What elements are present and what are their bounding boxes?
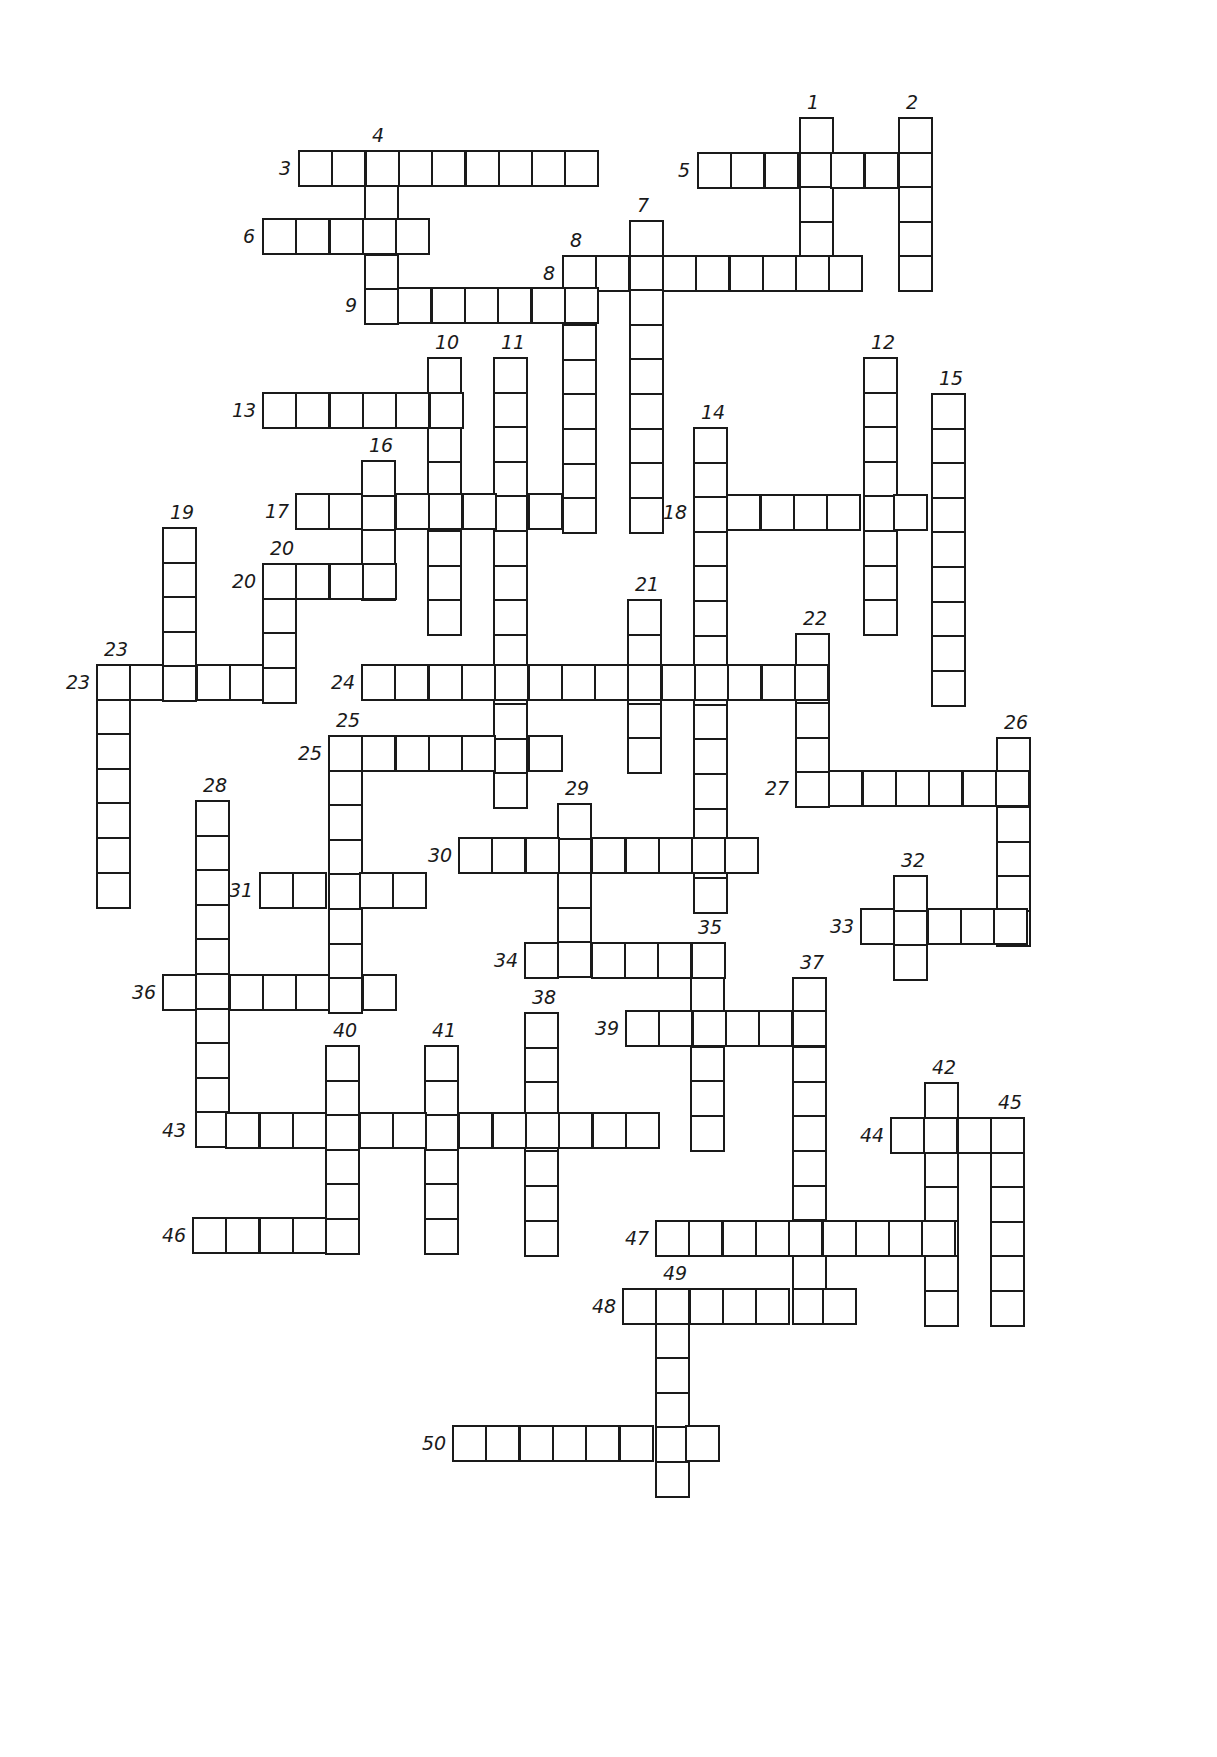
crossword-cell[interactable] bbox=[462, 493, 497, 530]
crossword-cell[interactable] bbox=[722, 1220, 757, 1257]
crossword-cell[interactable] bbox=[591, 837, 626, 874]
crossword-cell[interactable] bbox=[361, 460, 396, 497]
crossword-cell[interactable] bbox=[693, 877, 728, 914]
crossword-cell[interactable] bbox=[494, 664, 529, 701]
crossword-cell[interactable] bbox=[863, 599, 898, 636]
crossword-cell[interactable] bbox=[262, 392, 297, 429]
crossword-cell[interactable] bbox=[658, 837, 693, 874]
crossword-cell[interactable] bbox=[424, 1218, 459, 1255]
crossword-cell[interactable] bbox=[493, 703, 528, 740]
crossword-cell[interactable] bbox=[359, 1112, 394, 1149]
crossword-cell[interactable] bbox=[725, 1010, 760, 1047]
crossword-cell[interactable] bbox=[328, 804, 363, 841]
crossword-cell[interactable] bbox=[690, 1115, 725, 1152]
crossword-cell[interactable] bbox=[724, 837, 759, 874]
crossword-cell[interactable] bbox=[362, 563, 397, 600]
crossword-cell[interactable] bbox=[461, 664, 496, 701]
crossword-cell[interactable] bbox=[395, 735, 430, 772]
crossword-cell[interactable] bbox=[898, 255, 933, 292]
crossword-cell[interactable] bbox=[325, 1045, 360, 1082]
crossword-cell[interactable] bbox=[931, 670, 966, 707]
crossword-cell[interactable] bbox=[990, 1117, 1025, 1154]
crossword-cell[interactable] bbox=[990, 1186, 1025, 1223]
crossword-cell[interactable] bbox=[792, 1185, 827, 1222]
crossword-cell[interactable] bbox=[562, 324, 597, 361]
crossword-cell[interactable] bbox=[428, 664, 463, 701]
crossword-cell[interactable] bbox=[931, 531, 966, 568]
crossword-cell[interactable] bbox=[629, 220, 664, 257]
crossword-cell[interactable] bbox=[524, 1012, 559, 1049]
crossword-cell[interactable] bbox=[924, 1082, 959, 1119]
crossword-cell[interactable] bbox=[693, 531, 728, 568]
crossword-cell[interactable] bbox=[996, 875, 1031, 912]
crossword-cell[interactable] bbox=[799, 117, 834, 154]
crossword-cell[interactable] bbox=[693, 704, 728, 741]
crossword-cell[interactable] bbox=[931, 566, 966, 603]
crossword-cell[interactable] bbox=[295, 392, 330, 429]
crossword-cell[interactable] bbox=[962, 770, 997, 807]
crossword-cell[interactable] bbox=[325, 1218, 360, 1255]
crossword-cell[interactable] bbox=[863, 426, 898, 463]
crossword-cell[interactable] bbox=[424, 1149, 459, 1186]
crossword-cell[interactable] bbox=[863, 530, 898, 567]
crossword-cell[interactable] bbox=[162, 631, 197, 668]
crossword-cell[interactable] bbox=[361, 529, 396, 566]
crossword-cell[interactable] bbox=[524, 942, 559, 979]
crossword-cell[interactable] bbox=[427, 530, 462, 567]
crossword-cell[interactable] bbox=[863, 392, 898, 429]
crossword-cell[interactable] bbox=[525, 1112, 560, 1149]
crossword-cell[interactable] bbox=[822, 1288, 857, 1325]
crossword-cell[interactable] bbox=[788, 1220, 823, 1257]
crossword-cell[interactable] bbox=[195, 1008, 230, 1045]
crossword-cell[interactable] bbox=[328, 977, 363, 1014]
crossword-cell[interactable] bbox=[760, 494, 795, 531]
crossword-cell[interactable] bbox=[629, 428, 664, 465]
crossword-cell[interactable] bbox=[493, 461, 528, 498]
crossword-cell[interactable] bbox=[295, 218, 330, 255]
crossword-cell[interactable] bbox=[990, 1221, 1025, 1258]
crossword-cell[interactable] bbox=[629, 358, 664, 395]
crossword-cell[interactable] bbox=[525, 837, 560, 874]
crossword-cell[interactable] bbox=[493, 392, 528, 429]
crossword-cell[interactable] bbox=[195, 1042, 230, 1079]
crossword-cell[interactable] bbox=[655, 1288, 690, 1325]
crossword-cell[interactable] bbox=[259, 1112, 294, 1149]
crossword-cell[interactable] bbox=[528, 735, 563, 772]
crossword-cell[interactable] bbox=[195, 973, 230, 1010]
crossword-cell[interactable] bbox=[162, 527, 197, 564]
crossword-cell[interactable] bbox=[893, 944, 928, 981]
crossword-cell[interactable] bbox=[395, 493, 430, 530]
crossword-cell[interactable] bbox=[262, 563, 297, 600]
crossword-cell[interactable] bbox=[762, 255, 797, 292]
crossword-cell[interactable] bbox=[655, 1357, 690, 1394]
crossword-cell[interactable] bbox=[427, 357, 462, 394]
crossword-cell[interactable] bbox=[162, 665, 197, 702]
crossword-cell[interactable] bbox=[427, 565, 462, 602]
crossword-cell[interactable] bbox=[493, 738, 528, 775]
crossword-cell[interactable] bbox=[655, 1461, 690, 1498]
crossword-cell[interactable] bbox=[562, 463, 597, 500]
crossword-cell[interactable] bbox=[688, 1220, 723, 1257]
crossword-cell[interactable] bbox=[491, 837, 526, 874]
crossword-cell[interactable] bbox=[591, 942, 626, 979]
crossword-cell[interactable] bbox=[931, 428, 966, 465]
crossword-cell[interactable] bbox=[619, 1425, 654, 1462]
crossword-cell[interactable] bbox=[855, 1220, 890, 1257]
crossword-cell[interactable] bbox=[259, 872, 294, 909]
crossword-cell[interactable] bbox=[996, 841, 1031, 878]
crossword-cell[interactable] bbox=[792, 1010, 827, 1047]
crossword-cell[interactable] bbox=[898, 117, 933, 154]
crossword-cell[interactable] bbox=[931, 635, 966, 672]
crossword-cell[interactable] bbox=[493, 772, 528, 809]
crossword-cell[interactable] bbox=[822, 1220, 857, 1257]
crossword-cell[interactable] bbox=[931, 497, 966, 534]
crossword-cell[interactable] bbox=[799, 152, 834, 189]
crossword-cell[interactable] bbox=[693, 738, 728, 775]
crossword-cell[interactable] bbox=[557, 838, 592, 875]
crossword-cell[interactable] bbox=[195, 1077, 230, 1114]
crossword-cell[interactable] bbox=[361, 735, 396, 772]
crossword-cell[interactable] bbox=[692, 1010, 727, 1047]
crossword-cell[interactable] bbox=[519, 1425, 554, 1462]
crossword-cell[interactable] bbox=[957, 1117, 992, 1154]
crossword-cell[interactable] bbox=[292, 872, 327, 909]
